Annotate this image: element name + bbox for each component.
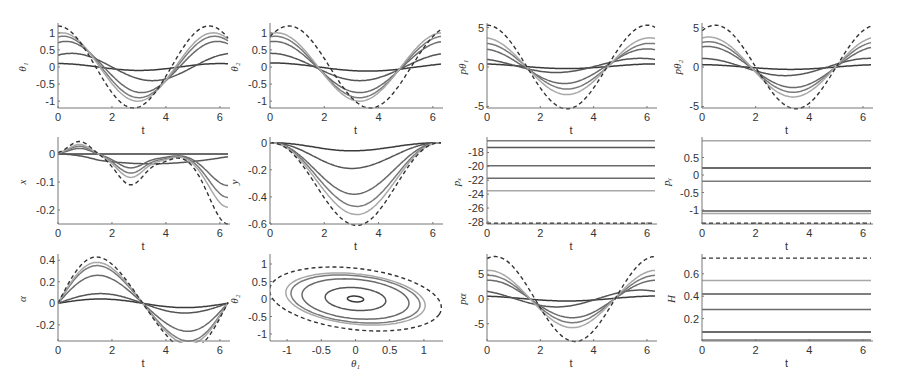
y-tick-label: 0.2 [40,276,55,288]
series-4 [487,38,655,95]
x-tick-label: 4 [806,344,812,356]
y-tick-label: 1 [261,258,267,270]
y-axis-label: θ₂ [228,294,240,303]
series-dashed [487,257,655,342]
y-tick-label: -0.6 [248,218,267,230]
y-tick-label: 0 [49,61,55,73]
x-tick-label: 6 [217,111,223,123]
series-4 [58,262,228,344]
y-tick-label: -0.2 [248,164,267,176]
y-tick-label: 0.5 [684,152,699,164]
y-tick-label: -1 [689,204,699,216]
y-tick-label: 1 [49,27,55,39]
subplot-p_theta2: 0246-505tpθ₂ [671,22,873,136]
y-tick-label: 0.4 [684,290,699,302]
y-tick-label: 0 [693,169,699,181]
y-tick-label: -22 [468,174,484,186]
x-tick-label: 2 [109,344,115,356]
series-dashed [58,26,228,108]
x-tick-label: 6 [430,111,436,123]
curves [702,258,871,340]
x-axis-label: t [141,240,144,252]
x-tick-label: 0.5 [382,344,397,356]
curves [270,143,441,226]
series-4 [58,33,228,101]
curves [270,267,442,331]
x-tick-label: 2 [321,111,327,123]
y-tick-label: -0.5 [248,78,267,90]
y-tick-label: 0 [261,137,267,149]
x-tick-label: 0 [55,227,61,239]
y-tick-label: -28 [468,216,484,228]
y-tick-label: 0.4 [40,254,55,266]
x-tick-label: 4 [806,227,812,239]
x-tick-label: 0 [484,111,490,123]
y-tick-label: -20 [468,160,484,172]
y-tick-label: 0.5 [252,276,267,288]
y-tick-label: -0.2 [36,319,55,331]
x-tick-label: 4 [376,111,382,123]
curves [487,257,655,342]
y-tick-label: 0.5 [252,44,267,56]
y-tick-label: 0.2 [684,313,699,325]
x-tick-label: 4 [591,111,597,123]
x-tick-label: 4 [806,111,812,123]
y-tick-label: -0.5 [680,187,699,199]
y-tick-label: -5 [474,100,484,112]
y-axis-label: α [16,296,28,302]
x-tick-label: 0 [484,344,490,356]
x-tick-label: 2 [753,344,759,356]
series-1 [325,288,386,311]
y-tick-label: -1 [257,95,267,107]
x-tick-label: 2 [109,111,115,123]
x-tick-label: 4 [163,111,169,123]
x-axis-label: t [141,124,144,136]
subplot-alpha: 0246-0.200.20.4tα [16,254,230,369]
subplot-p_x: 0246-28-26-24-22-20-18tpₓ [450,137,657,252]
curves [58,257,228,350]
series-0 [702,65,871,70]
curves [702,141,871,224]
y-axis-label: H [665,294,677,304]
y-tick-label: -0.2 [36,204,55,216]
x-axis-label: t [569,240,572,252]
y-tick-label: -0.5 [248,311,267,323]
y-tick-label: 5 [478,22,484,34]
y-tick-label: -5 [689,100,699,112]
y-tick-label: -1 [257,328,267,340]
y-tick-label: 1 [261,27,267,39]
subplot-theta2: 0246-1-0.500.51tθ₂ [228,23,443,136]
series-0 [58,64,228,71]
y-tick-label: -18 [468,146,484,158]
x-tick-label: 6 [217,227,223,239]
y-tick-label: 5 [478,268,484,280]
y-tick-label: 0 [478,61,484,73]
y-tick-label: -26 [468,202,484,214]
x-tick-label: 0 [352,344,358,356]
x-tick-label: 6 [644,227,650,239]
series-0 [270,63,441,71]
x-tick-label: 0 [55,344,61,356]
x-tick-label: 4 [163,227,169,239]
y-axis-label: x [16,179,28,185]
x-tick-label: 4 [591,227,597,239]
curves [270,26,441,108]
x-tick-label: 2 [537,227,543,239]
series-1 [487,290,655,307]
x-tick-label: 4 [163,344,169,356]
y-tick-label: 0 [693,61,699,73]
x-tick-label: 2 [753,111,759,123]
x-tick-label: 2 [537,111,543,123]
series-4 [286,273,425,325]
y-tick-label: 0.6 [684,268,699,280]
x-tick-label: 1 [421,344,427,356]
y-tick-label: 0 [261,293,267,305]
x-axis-label: θ₁ [351,357,360,369]
series-dashed [487,25,655,109]
y-tick-label: 0 [49,297,55,309]
x-axis-label: t [354,124,357,136]
y-tick-label: 0.5 [40,44,55,56]
subplot-theta1: 0246-1-0.500.51tθ₁ [16,23,230,136]
y-axis-label: pα [456,293,468,306]
y-tick-label: -24 [468,188,484,200]
